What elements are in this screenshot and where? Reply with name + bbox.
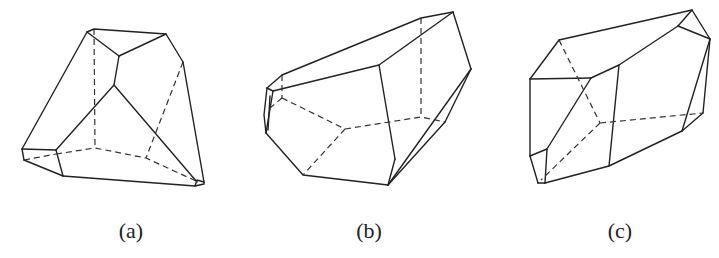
polyhedron-c-visible-edges [530, 10, 710, 183]
polyhedron-c [530, 10, 710, 183]
polyhedron-a-hidden-edges [24, 29, 196, 181]
polyhedron-b-visible-edges [264, 12, 471, 185]
caption-c: (c) [590, 218, 650, 244]
polyhedron-b [264, 12, 471, 185]
polyhedron-a-visible-edges [22, 29, 204, 186]
polyhedron-a [22, 29, 204, 186]
caption-b: (b) [339, 218, 399, 244]
caption-a: (a) [101, 218, 161, 244]
